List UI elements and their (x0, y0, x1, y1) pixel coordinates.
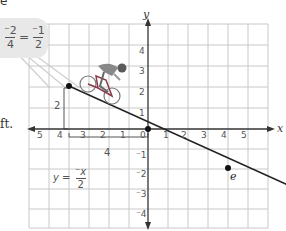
equation-fraction: ⁻x 2 (75, 167, 86, 190)
x-variable: x (80, 166, 86, 177)
x-tick: 5 (241, 131, 247, 140)
lhs-numerator: ⁻2 (4, 25, 17, 36)
x-axis-arrow-right (267, 126, 275, 132)
y-axis-label: y (143, 8, 149, 21)
rhs-denominator: 2 (35, 39, 42, 50)
x-tick: 3 (201, 131, 207, 140)
x-tick: 0 (140, 131, 146, 140)
x-tick: 1 (120, 131, 126, 140)
x-tick: 2 (100, 131, 106, 140)
axes (30, 22, 272, 228)
equals-sign: = (19, 30, 29, 44)
equation-denominator: 2 (77, 180, 83, 190)
x-tick: 1 (163, 131, 169, 140)
x-tick: 2 (181, 131, 187, 140)
y-tick: ⁻2 (136, 170, 146, 179)
y-tick: 3 (139, 67, 145, 76)
y-tick: ⁻1 (136, 151, 146, 160)
rhs-numerator: ⁻1 (32, 25, 45, 36)
cyclist-illustration (80, 64, 127, 105)
point-neg4-2 (66, 83, 72, 89)
rise-label: 2 (54, 101, 60, 111)
x-tick: 5 (37, 131, 43, 140)
x-tick: 3 (80, 131, 86, 140)
x-axis-label: x (277, 122, 283, 135)
x-axis-arrow-left (27, 126, 35, 132)
line-e-label: e (230, 170, 237, 183)
equation-numerator: ⁻x (75, 167, 86, 177)
y-tick: ⁻4 (136, 210, 146, 219)
y-tick: ⁻3 (136, 190, 146, 199)
y-axis-arrow-down (145, 222, 151, 230)
lhs-denominator: 4 (7, 39, 14, 50)
x-tick: 4 (221, 131, 227, 140)
slope-fraction-rhs: ⁻1 2 (32, 25, 45, 50)
run-label: 4 (104, 148, 110, 158)
equation-lhs: y = (53, 172, 70, 183)
y-tick: 4 (139, 47, 145, 56)
x-tick: 4 (57, 131, 63, 140)
y-tick: 2 (139, 88, 145, 97)
slope-fraction-lhs: ⁻2 4 (4, 25, 17, 50)
fragment-text-left: ft. (0, 117, 13, 131)
y-tick: 1 (139, 109, 145, 118)
